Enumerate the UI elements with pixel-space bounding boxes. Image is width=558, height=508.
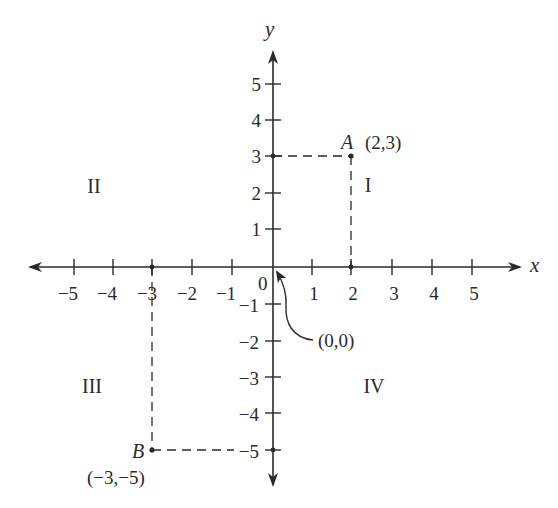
curved-arrow-icon xyxy=(277,272,313,340)
y-tick-labels-positive: 1 2 3 4 5 xyxy=(252,74,262,240)
point-a-x-projection-dot xyxy=(349,265,354,270)
y-tick-label: 4 xyxy=(252,110,262,131)
x-tick-label: 4 xyxy=(429,283,439,304)
y-tick-label: −1 xyxy=(239,295,259,316)
x-axis-label: x xyxy=(529,253,540,277)
point-a-name: A xyxy=(339,131,354,153)
y-axis: y xyxy=(263,17,275,485)
x-tick-label: 5 xyxy=(469,283,479,304)
x-tick-label: 2 xyxy=(348,283,358,304)
point-b-marker xyxy=(149,447,154,452)
y-axis-label: y xyxy=(263,17,275,41)
y-tick-label: −5 xyxy=(239,441,259,462)
x-tick-label: 1 xyxy=(309,283,319,304)
quadrant-4-label: IV xyxy=(363,375,385,397)
point-b-y-projection-dot xyxy=(271,448,276,453)
point-b-coordinates: (−3,−5) xyxy=(87,467,145,489)
x-tick-label: −1 xyxy=(216,283,236,304)
point-a-group: A (2,3) xyxy=(271,131,402,269)
quadrant-3-label: III xyxy=(82,375,102,397)
x-tick-labels: −5 −4 −3 −2 −1 1 2 3 4 5 xyxy=(58,283,479,304)
origin-callout-label: (0,0) xyxy=(318,330,354,352)
x-tick-label: −4 xyxy=(97,283,118,304)
y-tick-label: 5 xyxy=(252,74,262,95)
x-tick-label: −5 xyxy=(58,283,78,304)
point-a-marker xyxy=(348,153,353,158)
y-tick-label: −3 xyxy=(239,368,259,389)
coordinate-plane-svg: x y −5 −4 −3 −2 −1 1 xyxy=(0,0,558,508)
x-axis: x xyxy=(30,253,540,277)
x-tick-label: 3 xyxy=(389,283,399,304)
y-tick-label: 3 xyxy=(252,146,262,167)
point-a-y-projection-dot xyxy=(271,154,276,159)
quadrant-1-label: I xyxy=(365,174,372,196)
origin-label: 0 xyxy=(258,273,268,294)
y-tick-label: −4 xyxy=(239,404,260,425)
quadrant-2-label: II xyxy=(87,175,100,197)
y-tick-label: 2 xyxy=(252,183,262,204)
coordinate-plane-diagram: x y −5 −4 −3 −2 −1 1 xyxy=(0,0,558,508)
x-tick-label: −2 xyxy=(177,283,197,304)
y-tick-label: −2 xyxy=(239,332,259,353)
y-tick-labels-negative: −1 −2 −3 −4 −5 xyxy=(239,295,260,462)
x-tick-label: −3 xyxy=(137,283,157,304)
point-b-x-projection-dot xyxy=(150,265,155,270)
y-tick-label: 1 xyxy=(252,219,262,240)
point-b-name: B xyxy=(132,440,144,462)
point-a-coordinates: (2,3) xyxy=(365,132,401,154)
